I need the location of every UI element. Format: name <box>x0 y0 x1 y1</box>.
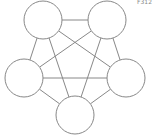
edge-left-bottom <box>39 89 59 104</box>
edge-top-right-right <box>113 38 120 60</box>
node-top-right <box>88 1 126 39</box>
node-left <box>5 59 43 97</box>
complete-graph-diagram <box>0 0 153 138</box>
edge-right-bottom <box>90 89 110 104</box>
edge-top-left-bottom <box>49 38 69 97</box>
node-bottom <box>56 96 94 134</box>
node-right <box>107 59 145 97</box>
edge-top-right-bottom <box>81 38 101 97</box>
edge-top-left-left <box>30 38 37 60</box>
node-top-left <box>24 1 62 39</box>
